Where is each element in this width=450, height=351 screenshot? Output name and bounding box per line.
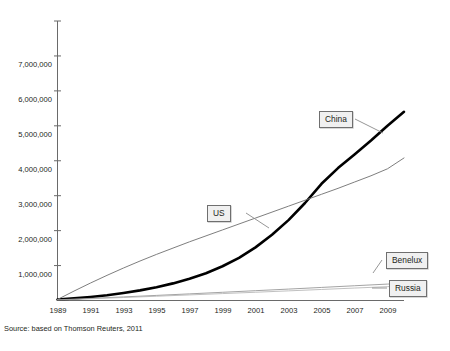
series-callout-china: China [319, 111, 353, 128]
series-line-us [58, 158, 405, 300]
series-line-benelux [58, 283, 405, 300]
x-tick-label: 2009 [368, 306, 408, 315]
series-callout-benelux: Benelux [386, 252, 428, 269]
y-tick-label: 2,000,000 [0, 235, 52, 244]
publication-output-chart-figure: Figure 1. Growth of scientific publicati… [0, 0, 450, 351]
series-line-russia [58, 286, 405, 300]
series-callout-us: US [207, 205, 231, 222]
y-tick-label: 5,000,000 [0, 130, 52, 139]
y-tick-label: 7,000,000 [0, 60, 52, 69]
y-tick-label: 1,000,000 [0, 270, 52, 279]
y-tick-label: 3,000,000 [0, 200, 52, 209]
chart-axes [57, 21, 404, 301]
y-tick-label: 4,000,000 [0, 165, 52, 174]
chart-plot-area [0, 0, 450, 351]
chart-series-lines [58, 112, 405, 300]
series-callout-russia: Russia [389, 280, 427, 297]
y-tick-label: 6,000,000 [0, 95, 52, 104]
source-note: Source: based on Thomson Reuters, 2011 [4, 324, 143, 333]
series-line-china [58, 112, 405, 300]
